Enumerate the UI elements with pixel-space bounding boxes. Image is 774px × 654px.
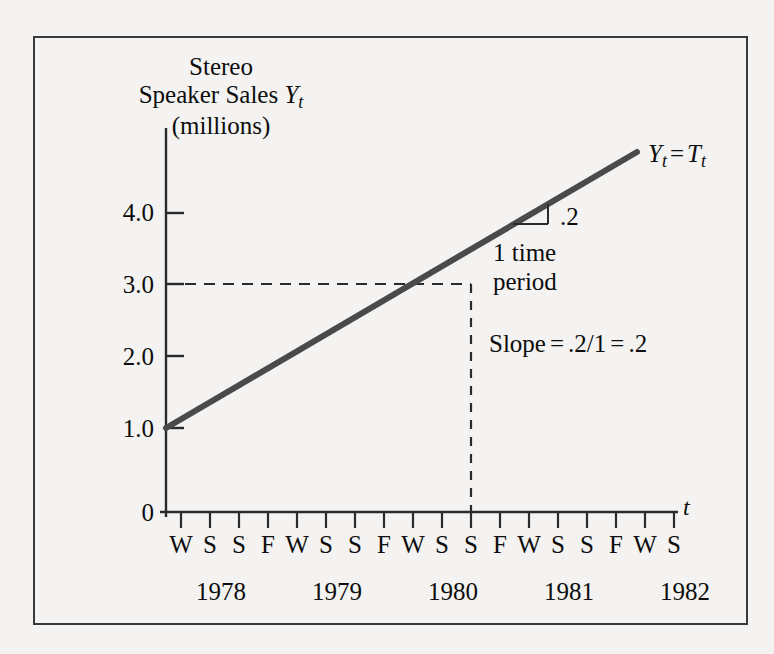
y-tick-label-2: 2.0: [96, 343, 154, 371]
x-tick-label-15: F: [601, 531, 631, 559]
slope-value: .2: [628, 330, 647, 357]
y-tick-label-0: 0: [96, 499, 154, 527]
x-tick-label-9: S: [427, 531, 457, 559]
slope-ratio: .2/1: [568, 330, 606, 357]
year-label-1979: 1979: [292, 578, 382, 606]
y-tick-label-4: 4.0: [96, 199, 154, 227]
title-subscript-t: t: [298, 92, 303, 112]
x-tick-label-11: F: [485, 531, 515, 559]
figure-container: Stereo Speaker Sales Yt (millions) 4.0 3…: [0, 0, 774, 654]
x-tick-label-16: W: [630, 531, 660, 559]
x-tick-label-13: S: [543, 531, 573, 559]
year-label-1981: 1981: [524, 578, 614, 606]
year-label-1982: 1982: [640, 578, 730, 606]
series-subscript-t: t: [701, 151, 706, 171]
run-label: 1 time period: [493, 238, 623, 296]
slope-equals-2: =: [606, 330, 628, 357]
rise-label: .2: [560, 203, 579, 231]
title-line-3: (millions): [172, 112, 271, 139]
series-symbol-t: T: [687, 140, 701, 167]
y-tick-label-1: 1.0: [96, 415, 154, 443]
series-label: Yt=Tt: [648, 140, 706, 171]
x-tick-label-1: S: [195, 531, 225, 559]
x-tick-label-7: F: [369, 531, 399, 559]
x-tick-label-0: W: [166, 531, 196, 559]
series-symbol-y: Y: [648, 140, 662, 167]
x-tick-label-6: S: [340, 531, 370, 559]
x-tick-label-17: S: [659, 531, 689, 559]
slope-equals-1: =: [546, 330, 568, 357]
y-tick-label-3: 3.0: [96, 271, 154, 299]
x-tick-label-8: W: [398, 531, 428, 559]
title-line-2-prefix: Speaker Sales: [139, 81, 285, 108]
title-symbol-y: Y: [284, 81, 298, 108]
x-tick-label-10: S: [456, 531, 486, 559]
year-label-1978: 1978: [176, 578, 266, 606]
x-tick-label-3: F: [253, 531, 283, 559]
title-line-1: Stereo: [189, 53, 253, 80]
x-axis-label: t: [683, 494, 690, 521]
series-equals-sign: =: [667, 140, 687, 167]
year-label-1980: 1980: [408, 578, 498, 606]
slope-equation: Slope=.2/1=.2: [489, 330, 647, 358]
x-tick-label-14: S: [572, 531, 602, 559]
x-axis-ticks: [181, 512, 674, 528]
chart-title: Stereo Speaker Sales Yt (millions): [96, 53, 346, 140]
slope-word: Slope: [489, 330, 546, 357]
x-tick-label-5: S: [311, 531, 341, 559]
x-tick-label-2: S: [224, 531, 254, 559]
x-tick-label-4: W: [282, 531, 312, 559]
x-tick-label-12: W: [514, 531, 544, 559]
